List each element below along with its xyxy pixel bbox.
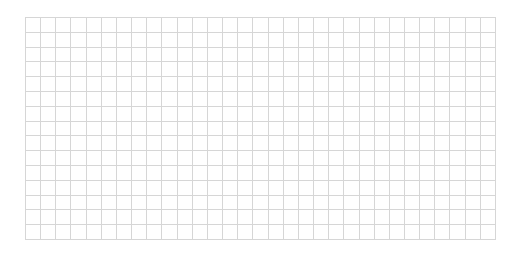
grid-horizontal-line	[25, 209, 496, 210]
grid-horizontal-line	[25, 224, 496, 225]
grid-vertical-line	[374, 17, 375, 239]
grid-horizontal-line	[25, 76, 496, 77]
grid-vertical-line	[207, 17, 208, 239]
grid-vertical-line	[40, 17, 41, 239]
grid-vertical-line	[70, 17, 71, 239]
grid-vertical-line	[146, 17, 147, 239]
grid-horizontal-line	[25, 32, 496, 33]
grid-horizontal-line	[25, 239, 496, 240]
grid-vertical-line	[237, 17, 238, 239]
grid-vertical-line	[389, 17, 390, 239]
grid-vertical-line	[359, 17, 360, 239]
grid-vertical-line	[192, 17, 193, 239]
grid-vertical-line	[252, 17, 253, 239]
grid-horizontal-line	[25, 17, 496, 18]
grid-vertical-line	[116, 17, 117, 239]
grid-vertical-line	[404, 17, 405, 239]
grid-vertical-line	[25, 17, 26, 239]
grid-horizontal-line	[25, 91, 496, 92]
grid-vertical-line	[465, 17, 466, 239]
grid-vertical-line	[313, 17, 314, 239]
grid-vertical-line	[480, 17, 481, 239]
grid-vertical-line	[449, 17, 450, 239]
grid-vertical-line	[161, 17, 162, 239]
grid-vertical-line	[495, 17, 496, 239]
grid-vertical-line	[222, 17, 223, 239]
grid-horizontal-line	[25, 180, 496, 181]
grid-vertical-line	[268, 17, 269, 239]
blank-canvas	[0, 0, 520, 256]
grid-horizontal-line	[25, 165, 496, 166]
grid-horizontal-line	[25, 106, 496, 107]
grid-vertical-line	[298, 17, 299, 239]
grid-vertical-line	[283, 17, 284, 239]
grid-horizontal-line	[25, 61, 496, 62]
grid-horizontal-line	[25, 47, 496, 48]
grid-horizontal-line	[25, 135, 496, 136]
grid-paper	[25, 17, 495, 239]
grid-horizontal-line	[25, 150, 496, 151]
grid-vertical-line	[343, 17, 344, 239]
grid-vertical-line	[101, 17, 102, 239]
grid-vertical-line	[177, 17, 178, 239]
grid-vertical-line	[419, 17, 420, 239]
grid-vertical-line	[328, 17, 329, 239]
grid-vertical-line	[86, 17, 87, 239]
grid-horizontal-line	[25, 195, 496, 196]
grid-vertical-line	[55, 17, 56, 239]
grid-vertical-line	[131, 17, 132, 239]
grid-horizontal-line	[25, 121, 496, 122]
grid-vertical-line	[434, 17, 435, 239]
